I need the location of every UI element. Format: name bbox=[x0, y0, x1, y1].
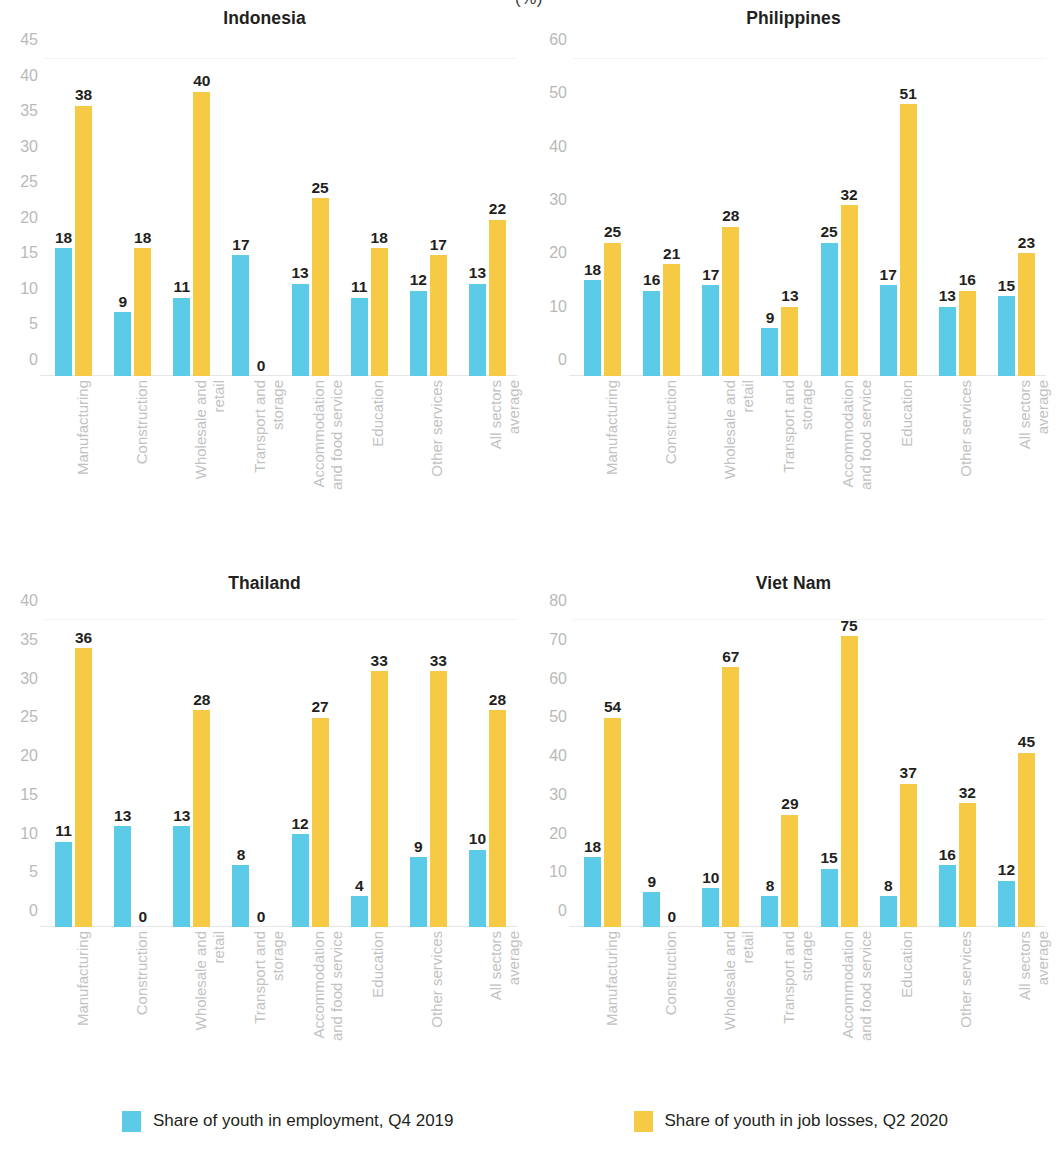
bar-employment[interactable] bbox=[939, 307, 956, 376]
y-axis-tick-label: 20 bbox=[549, 826, 567, 842]
bar-employment[interactable] bbox=[114, 826, 131, 927]
bar-employment[interactable] bbox=[55, 842, 72, 927]
bar-job-losses[interactable] bbox=[781, 815, 798, 927]
bar-value-label: 67 bbox=[722, 649, 739, 665]
bar-group-other-services: 1632 bbox=[928, 617, 987, 927]
bar-job-losses[interactable] bbox=[959, 291, 976, 376]
bar-group-manufacturing: 1838 bbox=[44, 56, 103, 376]
bar-job-losses[interactable] bbox=[134, 248, 151, 376]
bar-job-losses[interactable] bbox=[430, 255, 447, 376]
bar-job-losses[interactable] bbox=[604, 243, 621, 376]
bar-employment[interactable] bbox=[173, 298, 190, 376]
bar-employment[interactable] bbox=[232, 865, 249, 927]
bar-groups: 183891811401701325111812171322 bbox=[44, 56, 517, 376]
bar-job-losses[interactable] bbox=[722, 227, 739, 376]
bar-job-losses[interactable] bbox=[430, 671, 447, 927]
legend-item-employment_q4_2019[interactable]: Share of youth in employment, Q4 2019 bbox=[122, 1111, 454, 1132]
bar-value-label: 15 bbox=[998, 278, 1015, 294]
legend-label-job_losses_q2_2020: Share of youth in job losses, Q2 2020 bbox=[665, 1111, 949, 1131]
bar-groups: 1825162117289132532175113161523 bbox=[573, 56, 1046, 376]
bar-employment[interactable] bbox=[351, 298, 368, 376]
bar-job-losses[interactable] bbox=[193, 710, 210, 927]
bar-job-losses[interactable] bbox=[841, 636, 858, 927]
bar-job-losses[interactable] bbox=[193, 92, 210, 376]
bar-employment[interactable] bbox=[410, 291, 427, 376]
bar-group-education: 1751 bbox=[869, 56, 928, 376]
bar-employment[interactable] bbox=[998, 881, 1015, 928]
bar-employment[interactable] bbox=[232, 255, 249, 376]
bar-employment[interactable] bbox=[410, 857, 427, 927]
x-axis-label-line: Construction bbox=[133, 380, 150, 464]
plot-inner: 0510152025303540113613013288012274339331… bbox=[44, 617, 517, 927]
bar-slot: 25 bbox=[312, 56, 329, 376]
bar-job-losses[interactable] bbox=[75, 106, 92, 376]
bar-employment[interactable] bbox=[761, 328, 778, 376]
bar-job-losses[interactable] bbox=[1018, 253, 1035, 376]
bar-slot: 17 bbox=[232, 56, 249, 376]
bar-job-losses[interactable] bbox=[312, 718, 329, 927]
chart-title-indonesia: Indonesia bbox=[0, 8, 529, 29]
x-axis-label-line: Construction bbox=[662, 931, 679, 1015]
bar-job-losses[interactable] bbox=[781, 307, 798, 376]
bar-job-losses[interactable] bbox=[722, 667, 739, 927]
y-axis-tick-label: 5 bbox=[29, 864, 38, 880]
bar-employment[interactable] bbox=[702, 285, 719, 376]
bar-employment[interactable] bbox=[292, 284, 309, 376]
x-axis-label-cell: All sectorsaverage bbox=[987, 380, 1046, 560]
bar-value-label: 25 bbox=[820, 224, 837, 240]
bar-employment[interactable] bbox=[469, 850, 486, 928]
bar-employment[interactable] bbox=[880, 285, 897, 376]
bar-employment[interactable] bbox=[821, 243, 838, 376]
bar-job-losses[interactable] bbox=[1018, 753, 1035, 927]
bar-slot: 13 bbox=[173, 617, 190, 927]
x-axis-label-line: Education bbox=[369, 931, 386, 998]
bar-job-losses[interactable] bbox=[489, 710, 506, 927]
bar-job-losses[interactable] bbox=[663, 264, 680, 376]
y-axis-tick-label: 0 bbox=[558, 903, 567, 919]
bar-job-losses[interactable] bbox=[371, 671, 388, 927]
bar-employment[interactable] bbox=[643, 892, 660, 927]
bar-employment[interactable] bbox=[351, 896, 368, 927]
bar-group-education: 837 bbox=[869, 617, 928, 927]
bar-value-label: 17 bbox=[430, 237, 447, 253]
bar-job-losses[interactable] bbox=[900, 104, 917, 376]
bar-value-label: 28 bbox=[722, 208, 739, 224]
bar-employment[interactable] bbox=[761, 896, 778, 927]
bar-job-losses[interactable] bbox=[604, 718, 621, 927]
bar-employment[interactable] bbox=[584, 280, 601, 376]
legend-item-job_losses_q2_2020[interactable]: Share of youth in job losses, Q2 2020 bbox=[634, 1111, 949, 1132]
bar-value-label: 37 bbox=[900, 765, 917, 781]
bar-employment[interactable] bbox=[469, 284, 486, 376]
bar-employment[interactable] bbox=[821, 869, 838, 927]
bar-job-losses[interactable] bbox=[841, 205, 858, 376]
bar-employment[interactable] bbox=[998, 296, 1015, 376]
bar-value-label: 4 bbox=[355, 878, 364, 894]
bar-job-losses[interactable] bbox=[900, 784, 917, 927]
x-axis-labels: ManufacturingConstructionWholesale andre… bbox=[573, 931, 1046, 1111]
bar-employment[interactable] bbox=[880, 896, 897, 927]
bar-slot: 17 bbox=[430, 56, 447, 376]
bar-employment[interactable] bbox=[114, 312, 131, 376]
bar-job-losses[interactable] bbox=[959, 803, 976, 927]
bar-employment[interactable] bbox=[55, 248, 72, 376]
bar-employment[interactable] bbox=[173, 826, 190, 927]
x-axis-label-cell: Accommodationand food service bbox=[281, 931, 340, 1111]
bar-employment[interactable] bbox=[292, 834, 309, 927]
bar-job-losses[interactable] bbox=[489, 220, 506, 376]
bar-employment[interactable] bbox=[643, 291, 660, 376]
x-axis-label-cell: Wholesale andretail bbox=[162, 380, 221, 560]
bar-employment[interactable] bbox=[584, 857, 601, 927]
x-axis-label-line: Construction bbox=[662, 380, 679, 464]
bar-job-losses[interactable] bbox=[75, 648, 92, 927]
bar-value-label: 12 bbox=[291, 816, 308, 832]
y-axis-tick-label: 25 bbox=[20, 709, 38, 725]
bar-job-losses[interactable] bbox=[312, 198, 329, 376]
bar-employment[interactable] bbox=[702, 888, 719, 927]
bar-value-label: 13 bbox=[291, 265, 308, 281]
x-axis-label-line: Wholesale and bbox=[721, 380, 738, 479]
bar-employment[interactable] bbox=[939, 865, 956, 927]
bar-slot: 18 bbox=[584, 617, 601, 927]
x-axis-label-line: Other services bbox=[957, 380, 974, 477]
y-axis-tick-label: 0 bbox=[29, 352, 38, 368]
bar-job-losses[interactable] bbox=[371, 248, 388, 376]
